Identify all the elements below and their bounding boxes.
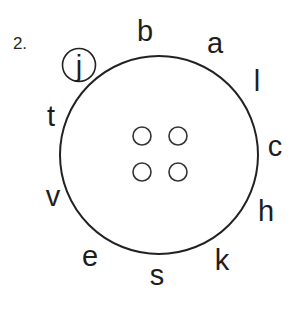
letter-s: s <box>150 261 165 290</box>
button-hole-top-right <box>169 127 187 145</box>
button-outline <box>60 56 258 254</box>
letter-b: b <box>137 17 153 46</box>
letter-l: l <box>254 67 260 96</box>
letter-t: t <box>47 102 55 131</box>
exercise-number: 2. <box>13 35 27 52</box>
button-hole-bottom-right <box>169 163 187 181</box>
button-hole-bottom-left <box>133 163 151 181</box>
letter-a: a <box>207 29 223 58</box>
letter-k: k <box>215 246 230 275</box>
letter-h: h <box>258 197 274 226</box>
letter-e: e <box>82 242 98 271</box>
circled-letter-j: j <box>76 52 82 81</box>
letter-c: c <box>268 132 283 161</box>
button-hole-top-left <box>133 127 151 145</box>
letter-v: v <box>46 182 61 211</box>
